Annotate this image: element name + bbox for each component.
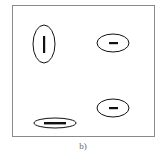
figure-canvas bbox=[0, 0, 166, 161]
bottom-left-flat-ellipse bbox=[34, 118, 76, 128]
short-bar-icon bbox=[109, 42, 118, 44]
bottom-right-ellipse bbox=[97, 99, 129, 117]
vertical-bar-icon bbox=[43, 36, 45, 53]
top-right-ellipse bbox=[97, 34, 129, 52]
figure-caption: b) bbox=[0, 141, 166, 151]
short-bar-icon bbox=[109, 107, 118, 109]
long-bar-icon bbox=[44, 122, 66, 124]
vertical-ellipse bbox=[33, 25, 55, 63]
